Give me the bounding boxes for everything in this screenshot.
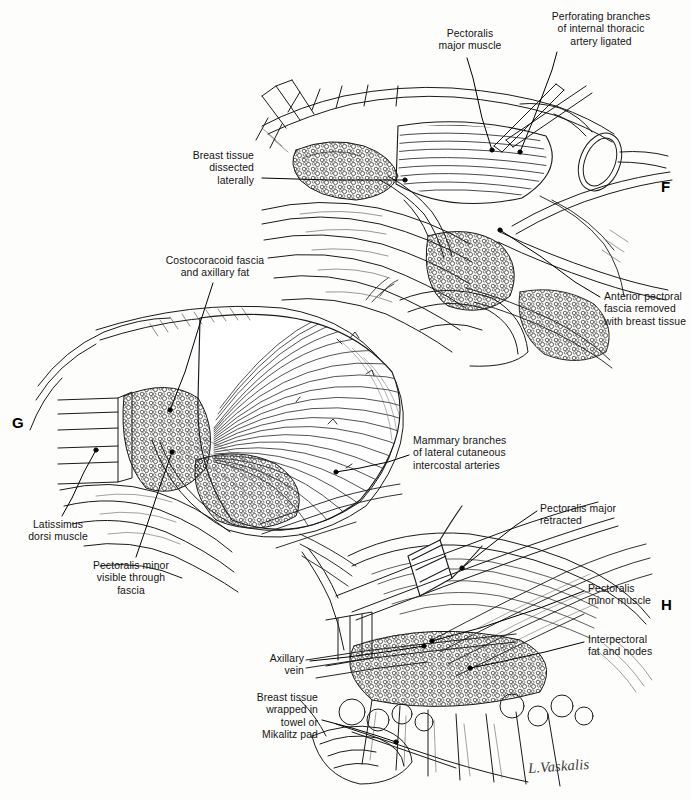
leader-tip-anterior-pectoral-fascia [498, 228, 502, 232]
leader-tip-pectoralis-major-retracted [460, 566, 464, 570]
label-costocoracoid-fascia: Costocoracoid fascia and axillary fat [150, 255, 280, 280]
label-anterior-pectoral-fascia: Anterior pectoral fascia removed with br… [604, 291, 691, 328]
leader-line-anterior-pectoral-fascia [500, 230, 600, 297]
leader-tip-latissimus-dorsi-muscle [94, 448, 98, 452]
panel-letter-f: F [661, 178, 670, 195]
panel-letter-h: H [661, 596, 672, 613]
label-breast-tissue-dissected-laterally: Breast tissue dissected laterally [158, 150, 254, 187]
label-perforating-branches: Perforating branches of internal thoraci… [528, 11, 674, 48]
leader-tip-interpectoral-fat-and-nodes [468, 666, 472, 670]
leader-tip-costocoracoid-fascia [168, 408, 172, 412]
leader-tip-pectoralis-minor-muscle [430, 639, 434, 643]
panel-letter-g: G [12, 414, 24, 431]
label-interpectoral-fat-and-nodes: Interpectoral fat and nodes [588, 634, 678, 659]
leader-tip-axillary-vein [422, 644, 426, 648]
label-pectoralis-major-muscle: Pectoralis major muscle [424, 28, 516, 53]
leader-tip-mammary-branches [334, 470, 338, 474]
label-pectoralis-major-retracted: Pectoralis major retracted [540, 503, 646, 528]
label-breast-tissue-wrapped: Breast tissue wrapped in towel or Mikali… [224, 692, 318, 742]
label-mammary-branches: Mammary branches of lateral cutaneous in… [413, 435, 531, 472]
leader-tip-perforating-branches [518, 150, 522, 154]
label-pectoralis-minor-visible: Pectoralis minor visible through fascia [77, 560, 185, 597]
label-axillary-vein: Axillary vein [236, 653, 304, 678]
leader-tip-breast-tissue-wrapped [394, 740, 398, 744]
leader-tip-pectoralis-minor-visible [170, 450, 174, 454]
leader-tip-pectoralis-major-muscle [490, 148, 494, 152]
leader-tip-breast-tissue-dissected-laterally [403, 178, 407, 182]
label-latissimus-dorsi-muscle: Latissimus dorsi muscle [18, 519, 98, 544]
